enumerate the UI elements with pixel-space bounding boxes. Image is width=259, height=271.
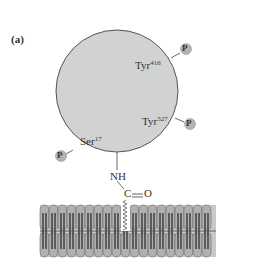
diagram-canvas: [0, 0, 259, 271]
residue-label-tyr416: Tyr416: [135, 60, 161, 71]
residue-name: Ser: [80, 135, 95, 147]
residue-name: Tyr: [135, 59, 150, 71]
src-protein: [56, 30, 178, 152]
ser17-phosphate-bond: [66, 150, 73, 154]
residue-name: Tyr: [142, 115, 157, 127]
residue-label-ser17: Ser17: [80, 136, 102, 147]
residue-number: 416: [150, 59, 161, 67]
amide-bond: [117, 181, 124, 189]
tyr527-phosphate-bond: [175, 118, 184, 122]
carbonyl-c-label: C: [124, 188, 131, 199]
lipid-bilayer: [40, 205, 216, 257]
carbonyl-o-label: O: [144, 188, 152, 199]
residue-number: 17: [95, 135, 102, 143]
amide-nh-label: NH: [110, 171, 126, 182]
residue-label-tyr527: Tyr527: [142, 116, 168, 127]
residue-number: 527: [157, 115, 168, 123]
double-bond-label: [132, 187, 143, 198]
lower-leaflet: [40, 231, 211, 257]
tyr416-phosphate-bond: [171, 53, 180, 58]
phosphate-label-ser17: P: [57, 151, 63, 160]
phosphate-label-tyr527: P: [186, 119, 192, 128]
phosphate-label-tyr416: P: [182, 44, 188, 53]
